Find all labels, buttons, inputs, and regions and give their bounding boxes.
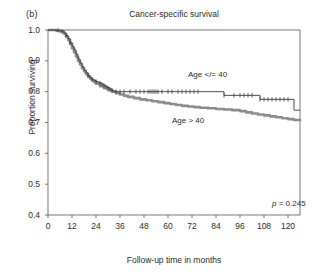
x-tick-label: 24 xyxy=(84,221,108,231)
figure-panel: (b) Cancer-specific survival Proportion … xyxy=(0,0,315,275)
y-tick-label: 0.4 xyxy=(14,210,40,220)
x-tick-label: 0 xyxy=(36,221,60,231)
series-label-age-le-40: Age </= 40 xyxy=(188,70,227,79)
series-label-age-gt-40: Age > 40 xyxy=(172,116,204,125)
y-tick-label: 1.0 xyxy=(14,25,40,35)
x-tick-label: 48 xyxy=(132,221,156,231)
y-tick-label: 0.7 xyxy=(14,117,40,127)
series-line-age-le-40 xyxy=(48,30,300,110)
x-tick-label: 108 xyxy=(252,221,276,231)
x-tick-label: 12 xyxy=(60,221,84,231)
x-tick-label: 96 xyxy=(228,221,252,231)
y-tick-label: 0.9 xyxy=(14,55,40,65)
y-tick-label: 0.8 xyxy=(14,86,40,96)
censor-marks-age-le-40 xyxy=(58,28,288,101)
x-tick-label: 60 xyxy=(156,221,180,231)
x-tick-label: 120 xyxy=(276,221,300,231)
x-tick-label: 84 xyxy=(204,221,228,231)
x-tick-label: 36 xyxy=(108,221,132,231)
p-value-annotation: p = 0.245 xyxy=(272,199,306,208)
series-line-age-gt-40 xyxy=(48,30,300,121)
y-tick-label: 0.6 xyxy=(14,148,40,158)
x-tick-label: 72 xyxy=(180,221,204,231)
survival-plot xyxy=(0,0,315,275)
y-tick-label: 0.5 xyxy=(14,179,40,189)
